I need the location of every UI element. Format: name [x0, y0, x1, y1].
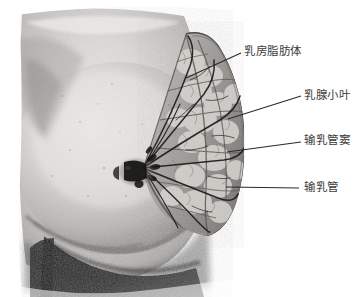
annotation-label-corpus-adiposum-mammae: 乳房脂肪体 [244, 45, 302, 58]
annotation-label-sinus-lactiferi: 输乳管窦 [304, 134, 350, 147]
annotation-label-ductus-lactiferi: 输乳管 [304, 181, 339, 194]
breast-anatomy-illustration [0, 0, 250, 297]
annotation-label-lobuli-glandulae-mammariae: 乳腺小叶 [304, 89, 350, 102]
figure-canvas: 乳房脂肪体 乳腺小叶 输乳管窦 输乳管 [0, 0, 363, 297]
